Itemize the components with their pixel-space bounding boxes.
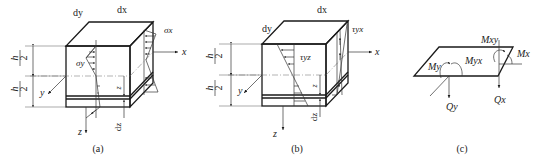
myx-moment-arc bbox=[451, 63, 462, 76]
h-half-top-label-b: h 2 bbox=[204, 48, 224, 64]
svg-text:2: 2 bbox=[18, 87, 29, 92]
tau-yz-label: τyz bbox=[300, 52, 311, 62]
sigma-x-label: σx bbox=[164, 25, 172, 35]
y-axis-label: y bbox=[39, 87, 45, 98]
svg-text:2: 2 bbox=[18, 56, 29, 61]
tau-yx-label: τyx bbox=[352, 24, 363, 34]
qx-label: Qx bbox=[494, 94, 506, 105]
dz-label: dz bbox=[113, 123, 123, 132]
panel-b: h 2 h 2 τyz bbox=[204, 4, 380, 155]
dy-label: dy bbox=[73, 7, 83, 18]
z-dim-label-b: z bbox=[310, 84, 319, 89]
h-half-bottom-label: h 2 bbox=[9, 81, 29, 97]
h-half-bottom-label-b: h 2 bbox=[204, 80, 224, 96]
cube-top-face-b bbox=[262, 21, 348, 44]
qy-label: Qy bbox=[446, 101, 458, 112]
mx-label: Mx bbox=[516, 48, 530, 59]
plate-element-diagram: h 2 h 2 bbox=[0, 0, 537, 165]
svg-text:2: 2 bbox=[213, 86, 224, 91]
cube-side-face bbox=[130, 22, 153, 107]
dz-label-b: dz bbox=[309, 113, 319, 122]
x-axis-label: x bbox=[181, 46, 187, 57]
dy-label-b: dy bbox=[262, 23, 272, 34]
y-axis-arrow-b bbox=[244, 75, 262, 93]
cube-front-face bbox=[66, 46, 130, 107]
mxy-label: Mxy bbox=[480, 34, 499, 45]
caption-b: (b) bbox=[291, 143, 303, 155]
y-axis-label-b: y bbox=[237, 85, 243, 96]
h-half-top-label: h 2 bbox=[9, 50, 29, 66]
caption-c: (c) bbox=[456, 143, 467, 155]
z-axis-label: z bbox=[77, 126, 82, 137]
my-label: My bbox=[427, 61, 441, 72]
x-axis-label-b: x bbox=[374, 46, 380, 57]
z-dim-label: z bbox=[114, 86, 123, 91]
caption-a: (a) bbox=[92, 143, 103, 155]
z-axis-label-b: z bbox=[272, 128, 277, 139]
y-axis-arrow bbox=[48, 76, 66, 94]
panel-a: h 2 h 2 bbox=[9, 4, 187, 155]
sigma-y-label: σy bbox=[76, 58, 84, 68]
panel-c: My Myx Qy Mxy Mx Qx (c) bbox=[414, 34, 530, 155]
myx-label: Myx bbox=[464, 55, 483, 66]
cube-top-face bbox=[66, 22, 153, 46]
dx-label-b: dx bbox=[317, 4, 327, 15]
dx-label: dx bbox=[117, 4, 127, 15]
svg-text:2: 2 bbox=[213, 54, 224, 59]
